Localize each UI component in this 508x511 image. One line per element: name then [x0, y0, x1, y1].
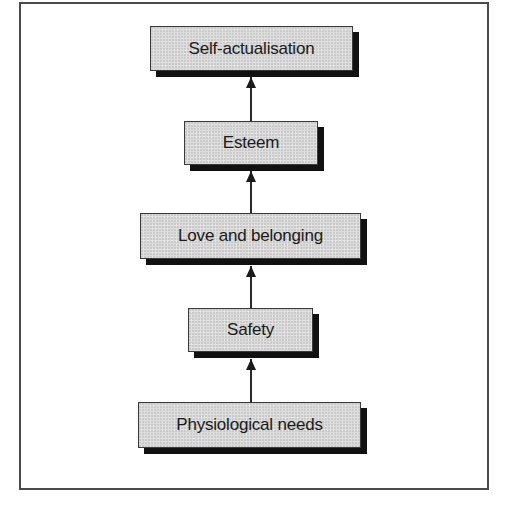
arrowhead-icon	[246, 77, 256, 88]
arrow-up-icon	[246, 77, 256, 121]
node-label: Safety	[227, 320, 274, 340]
node-esteem: Esteem	[184, 121, 318, 165]
arrow-up-icon	[246, 171, 256, 213]
arrow-up-icon	[246, 266, 256, 308]
node-label: Physiological needs	[176, 415, 322, 435]
arrowhead-icon	[246, 171, 256, 182]
node-self-actualisation: Self-actualisation	[150, 26, 353, 71]
arrow-up-icon	[246, 359, 256, 402]
node-love-and-belonging: Love and belonging	[140, 213, 361, 259]
node-label: Love and belonging	[178, 226, 323, 246]
node-safety: Safety	[188, 308, 313, 352]
node-physiological-needs: Physiological needs	[138, 402, 361, 448]
arrowhead-icon	[246, 359, 256, 370]
arrowhead-icon	[246, 266, 256, 277]
node-label: Esteem	[223, 133, 279, 153]
node-label: Self-actualisation	[189, 39, 315, 59]
